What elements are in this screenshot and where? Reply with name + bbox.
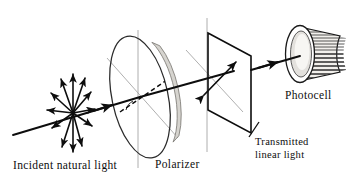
photocell-window-highlight	[295, 34, 310, 70]
label-photocell: Photocell	[285, 89, 332, 101]
polarization-diagram: Incident natural light Polarizer Transmi…	[0, 0, 355, 178]
label-polarizer: Polarizer	[155, 158, 200, 170]
label-transmitted-line1: Transmitted	[255, 136, 309, 147]
label-transmitted-line2: linear light	[255, 149, 304, 160]
figure-root: Incident natural light Polarizer Transmi…	[0, 0, 355, 178]
label-incident-natural-light: Incident natural light	[13, 159, 118, 172]
